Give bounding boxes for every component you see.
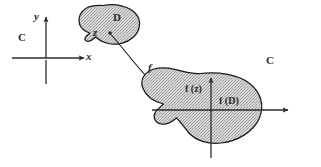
- point-fz-label: f (z): [185, 84, 202, 94]
- set-d-label: D: [113, 12, 121, 23]
- point-z-marker: [108, 31, 111, 34]
- figure-canvas: [0, 0, 321, 167]
- domain-plane-label: C: [18, 32, 26, 43]
- domain-y-axis-label: y: [34, 11, 39, 22]
- domain-set-blob: [79, 5, 140, 44]
- codomain-set-blob: [142, 68, 262, 144]
- mapping-diagram-figure: y C x D z f C f (z) f (D): [0, 0, 321, 167]
- set-fd-label: f (D): [219, 96, 239, 106]
- domain-axes: [12, 17, 84, 84]
- point-z-label: z: [93, 27, 97, 38]
- set-fd-shape: [142, 68, 262, 144]
- domain-x-axis-label: x: [86, 51, 92, 62]
- codomain-plane-label: C: [266, 55, 274, 66]
- set-d-shape: [79, 5, 140, 44]
- function-f-label: f: [148, 62, 152, 73]
